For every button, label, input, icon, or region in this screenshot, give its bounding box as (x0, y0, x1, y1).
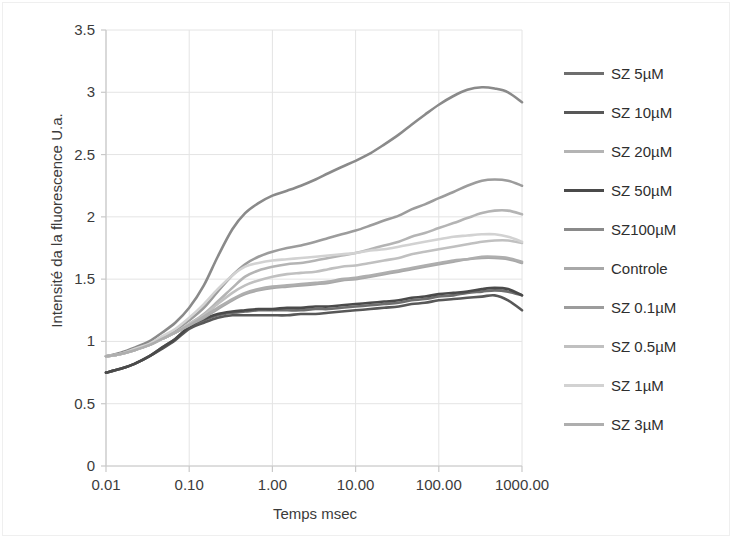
y-tick-label: 3.5 (74, 21, 95, 38)
legend-swatch-icon (564, 384, 604, 387)
y-tick-label: 1.5 (74, 270, 95, 287)
legend-item[interactable]: Controle (564, 249, 732, 288)
x-axis-title: Temps msec (106, 505, 524, 522)
x-tick-label: 0.10 (175, 476, 204, 493)
legend-item[interactable]: SZ 0.1µM (564, 288, 732, 327)
gridlines (106, 30, 522, 466)
y-tick-label: 1 (87, 332, 95, 349)
data-series-layer (106, 87, 522, 372)
legend-item-label: SZ 5µM (611, 65, 664, 82)
legend-item-label: SZ 20µM (611, 143, 672, 160)
series-line (106, 179, 522, 356)
legend-item[interactable]: SZ 3µM (564, 405, 732, 444)
legend-item[interactable]: SZ 5µM (564, 54, 732, 93)
legend-item-label: SZ 3µM (611, 416, 664, 433)
axis-lines (101, 30, 522, 472)
x-tick-label: 0.01 (91, 476, 120, 493)
y-tick-label: 0.5 (74, 395, 95, 412)
legend-swatch-icon (564, 423, 604, 426)
y-tick-label: 3 (87, 83, 95, 100)
series-line (106, 288, 522, 373)
x-tick-labels: 0.010.101.0010.00100.001000.00 (91, 476, 549, 493)
legend-item-label: SZ 10µM (611, 104, 672, 121)
legend-item-label: Controle (611, 260, 668, 277)
x-tick-label: 100.00 (416, 476, 462, 493)
legend-swatch-icon (564, 306, 604, 309)
chart-legend: SZ 5µMSZ 10µMSZ 20µMSZ 50µMSZ100µMContro… (564, 54, 732, 444)
y-tick-label: 0 (87, 457, 95, 474)
legend-swatch-icon (564, 228, 604, 231)
legend-item-label: SZ 50µM (611, 182, 672, 199)
legend-item[interactable]: SZ 0.5µM (564, 327, 732, 366)
legend-item-label: SZ 0.1µM (611, 299, 676, 316)
plot-svg: 00.511.522.533.5 0.010.101.0010.00100.00… (0, 0, 560, 540)
y-tick-labels: 00.511.522.533.5 (74, 21, 95, 474)
plot-area: 00.511.522.533.5 0.010.101.0010.00100.00… (0, 0, 560, 540)
y-tick-label: 2 (87, 208, 95, 225)
legend-swatch-icon (564, 189, 604, 192)
x-tick-label: 1000.00 (495, 476, 549, 493)
x-tick-label: 1.00 (258, 476, 287, 493)
chart-figure: 00.511.522.533.5 0.010.101.0010.00100.00… (0, 0, 734, 540)
legend-item-label: SZ 0.5µM (611, 338, 676, 355)
legend-item[interactable]: SZ100µM (564, 210, 732, 249)
legend-item-label: SZ100µM (611, 221, 676, 238)
legend-item[interactable]: SZ 10µM (564, 93, 732, 132)
series-line (106, 290, 522, 372)
legend-swatch-icon (564, 150, 604, 153)
y-tick-label: 2.5 (74, 146, 95, 163)
legend-swatch-icon (564, 111, 604, 114)
y-axis-title: Intensité da la fluorescence U.a. (48, 71, 65, 371)
legend-swatch-icon (564, 267, 604, 270)
legend-item[interactable]: SZ 20µM (564, 132, 732, 171)
x-tick-label: 10.00 (337, 476, 375, 493)
legend-item-label: SZ 1µM (611, 377, 664, 394)
legend-item[interactable]: SZ 50µM (564, 171, 732, 210)
legend-swatch-icon (564, 345, 604, 348)
legend-item[interactable]: SZ 1µM (564, 366, 732, 405)
legend-swatch-icon (564, 72, 604, 75)
